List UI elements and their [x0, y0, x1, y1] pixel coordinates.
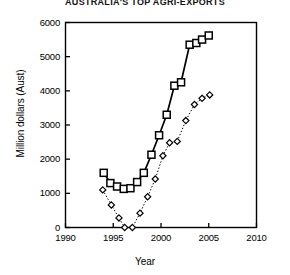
series-squares-marker — [156, 132, 163, 139]
series-diamonds-marker — [174, 138, 180, 144]
axes-frame — [66, 23, 257, 228]
series-diamonds-line — [103, 95, 210, 228]
series-diamonds-marker — [152, 176, 158, 182]
axis-ticks — [66, 23, 257, 228]
series-diamonds-marker — [100, 187, 106, 193]
series-squares — [100, 32, 212, 192]
series-diamonds-marker — [207, 92, 213, 98]
series-squares-marker — [205, 32, 212, 39]
series-diamonds-marker — [167, 140, 173, 146]
series-diamonds-marker — [183, 117, 189, 123]
series-squares-line — [104, 35, 209, 188]
series-diamonds-marker — [122, 224, 128, 230]
data-series-layer — [100, 32, 213, 231]
series-squares-marker — [178, 79, 185, 86]
series-squares-marker — [100, 169, 107, 176]
series-diamonds-marker — [116, 215, 122, 221]
series-diamonds-marker — [137, 210, 143, 216]
series-squares-marker — [163, 111, 170, 118]
series-diamonds-marker — [108, 202, 114, 208]
series-squares-marker — [140, 169, 147, 176]
chart-canvas — [0, 0, 290, 275]
chart-figure: AUSTRALIA'S TOP AGRI-EXPORTS Million dol… — [0, 0, 290, 275]
series-squares-marker — [148, 151, 155, 158]
series-squares-marker — [134, 179, 141, 186]
series-diamonds-marker — [129, 224, 135, 230]
series-diamonds-marker — [145, 194, 151, 200]
series-diamonds — [100, 92, 213, 231]
series-diamonds-marker — [160, 153, 166, 159]
axes-box — [66, 23, 257, 228]
